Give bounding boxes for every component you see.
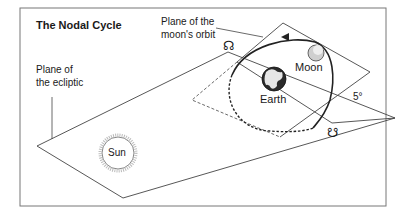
ecliptic-plane <box>37 52 395 198</box>
descending-node-icon: ☋ <box>327 127 339 139</box>
sun-label: Sun <box>108 147 126 159</box>
moon-plane-label-line1: Plane of the <box>161 16 214 28</box>
moon-icon <box>308 45 324 61</box>
ecliptic-label-line2: the ecliptic <box>36 77 83 89</box>
earth-icon <box>262 67 286 91</box>
moon-plane-label-line2: moon's orbit <box>161 29 215 41</box>
earth-label: Earth <box>260 93 286 105</box>
diagram-title: The Nodal Cycle <box>36 19 122 31</box>
moon-plane-leader-line <box>216 28 263 37</box>
ascending-node-icon: ☊ <box>223 40 235 52</box>
moon-label: Moon <box>295 61 323 73</box>
angle-label: 5° <box>353 91 363 103</box>
ecliptic-label-line1: Plane of <box>36 64 73 76</box>
orbit-direction-arrow <box>281 33 289 41</box>
